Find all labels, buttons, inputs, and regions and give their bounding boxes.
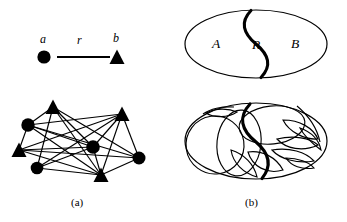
label-r: r bbox=[77, 34, 82, 46]
label-region-B: B bbox=[291, 37, 299, 51]
bottom-ellipse-group bbox=[182, 103, 327, 179]
graph-edge bbox=[19, 150, 139, 158]
graph-node-triangle bbox=[115, 107, 130, 122]
graph-node-circle bbox=[133, 152, 146, 165]
graph-node-triangle bbox=[46, 100, 61, 115]
node-b-triangle bbox=[110, 50, 125, 65]
caption-panel-b: (b) bbox=[245, 197, 258, 208]
graph-nodes-group bbox=[12, 100, 146, 183]
label-region-A: A bbox=[212, 37, 220, 51]
caption-panel-a: (a) bbox=[71, 197, 83, 208]
graph-edge bbox=[101, 114, 122, 175]
node-a-circle bbox=[37, 50, 50, 63]
label-region-R: R bbox=[252, 38, 260, 52]
label-b: b bbox=[113, 32, 119, 44]
graph-node-circle bbox=[31, 162, 44, 175]
graph-node-circle bbox=[21, 118, 34, 131]
figure-root: a r b A R B (a) (b) bbox=[0, 0, 347, 222]
label-a: a bbox=[40, 33, 46, 45]
relation-example-group bbox=[37, 50, 124, 65]
figure-canvas bbox=[0, 0, 347, 222]
graph-node-circle bbox=[86, 140, 100, 154]
